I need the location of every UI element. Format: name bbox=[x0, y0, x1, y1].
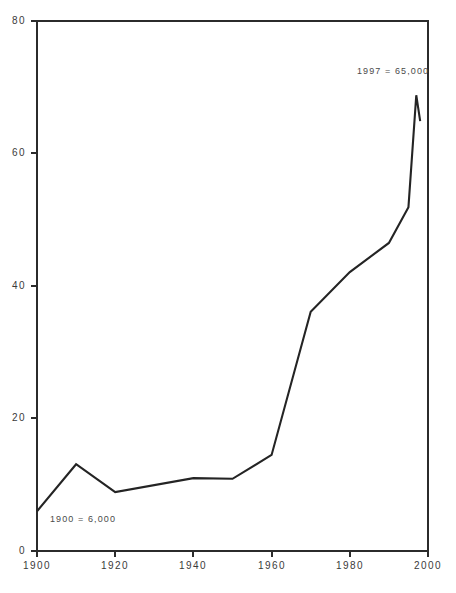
y-tick-marks bbox=[31, 21, 37, 551]
xtick-label-1960: 1960 bbox=[242, 560, 302, 571]
xtick-label-1980: 1980 bbox=[320, 560, 380, 571]
annotation-peak-value: 1997 = 65,000 bbox=[357, 66, 429, 76]
xtick-label-1920: 1920 bbox=[85, 560, 145, 571]
xtick-label-2000: 2000 bbox=[398, 560, 456, 571]
ytick-label-60: 60 bbox=[0, 147, 26, 158]
xtick-label-1900: 1900 bbox=[7, 560, 67, 571]
annotation-start-value: 1900 = 6,000 bbox=[50, 514, 116, 524]
line-chart: 1900 1920 1940 1960 1980 2000 80 60 40 2… bbox=[0, 0, 456, 593]
ytick-label-80: 80 bbox=[0, 15, 26, 26]
ytick-label-20: 20 bbox=[0, 412, 26, 423]
plot-area bbox=[0, 0, 456, 593]
data-series-line bbox=[37, 95, 420, 511]
axis-frame bbox=[37, 21, 428, 551]
x-tick-marks bbox=[37, 551, 428, 557]
xtick-label-1940: 1940 bbox=[163, 560, 223, 571]
ytick-label-0: 0 bbox=[0, 545, 26, 556]
ytick-label-40: 40 bbox=[0, 280, 26, 291]
